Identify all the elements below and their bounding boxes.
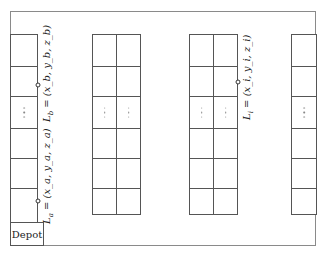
rack-cell	[189, 128, 214, 159]
rack-cell	[116, 34, 141, 67]
rack-cell	[291, 188, 317, 215]
label-subscript: i	[247, 111, 255, 113]
rack-cell-ellipsis	[10, 96, 38, 129]
rack-cell	[92, 158, 117, 189]
location-label-i: Li = (x_i, y_i, z_i)	[241, 35, 255, 120]
rack-cell	[116, 66, 141, 97]
label-symbol: L	[41, 115, 52, 122]
rack-cell	[116, 158, 141, 189]
rack-cell	[92, 66, 117, 97]
location-label-a: La = (x_a, y_a, z_a)	[41, 128, 55, 224]
rack-cell	[291, 34, 317, 67]
rack-cell-ellipsis	[116, 96, 141, 129]
rack-cell	[213, 158, 238, 189]
rack-cell	[189, 66, 214, 97]
rack-cell	[92, 188, 117, 215]
location-label-b: Lb = (x_b, y_b, z_b)	[41, 25, 55, 122]
label-coords: = (x_b, y_b, z_b)	[41, 25, 52, 108]
rack-cell	[213, 128, 238, 159]
rack-cell	[291, 128, 317, 159]
vertical-ellipsis-icon	[104, 107, 106, 118]
label-subscript: b	[47, 111, 55, 115]
rack-cell	[10, 128, 38, 159]
rack-cell	[10, 34, 38, 67]
rack-cell	[291, 158, 317, 189]
rack-cell-ellipsis	[92, 96, 117, 129]
depot: Depot	[10, 222, 44, 246]
rack-cell	[213, 188, 238, 215]
vertical-ellipsis-icon	[303, 107, 305, 118]
rack-cell	[92, 34, 117, 67]
rack-cell	[189, 158, 214, 189]
rack-cell	[10, 66, 38, 97]
rack-cell-ellipsis	[189, 96, 214, 129]
label-subscript: a	[47, 213, 55, 217]
rack-cell	[92, 128, 117, 159]
rack-cell	[10, 188, 38, 223]
rack-cell-ellipsis	[291, 96, 317, 129]
location-marker-a	[36, 199, 41, 204]
rack-cell	[189, 34, 214, 67]
vertical-ellipsis-icon	[225, 107, 227, 118]
location-marker-i	[236, 80, 241, 85]
label-symbol: L	[241, 113, 252, 120]
rack-cell	[213, 66, 238, 97]
rack-cell-ellipsis	[213, 96, 238, 129]
rack-cell	[10, 158, 38, 189]
label-coords: = (x_i, y_i, z_i)	[241, 35, 252, 108]
vertical-ellipsis-icon	[23, 107, 25, 118]
depot-label: Depot	[12, 229, 42, 240]
location-marker-b	[36, 83, 41, 88]
vertical-ellipsis-icon	[128, 107, 130, 118]
rack-cell	[189, 188, 214, 215]
rack-cell	[291, 66, 317, 97]
vertical-ellipsis-icon	[201, 107, 203, 118]
rack-cell	[213, 34, 238, 67]
rack-cell	[116, 128, 141, 159]
rack-cell	[116, 188, 141, 215]
label-coords: = (x_a, y_a, z_a)	[41, 128, 52, 210]
warehouse-boundary	[10, 11, 316, 246]
